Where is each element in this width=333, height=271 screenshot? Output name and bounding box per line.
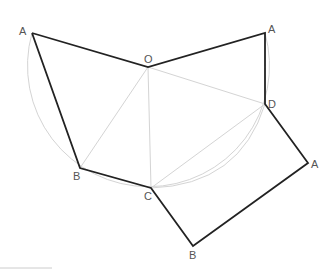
line-o-c (148, 67, 151, 188)
label-b-left: B (73, 170, 80, 182)
line-o-b (80, 67, 148, 168)
label-a-top-right: A (268, 23, 276, 35)
label-c: C (144, 190, 152, 202)
label-d: D (268, 98, 276, 110)
label-a-top-left: A (19, 25, 27, 37)
label-b-bottom: B (189, 249, 196, 261)
net-outline (32, 33, 308, 246)
label-o: O (144, 53, 153, 65)
line-o-d (148, 67, 265, 104)
label-a-right: A (311, 158, 319, 170)
geometry-diagram: A O A D A B C B (0, 0, 333, 271)
